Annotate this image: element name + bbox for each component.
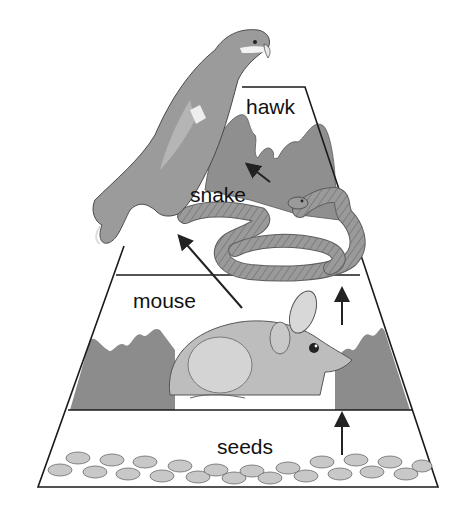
food-chain-pyramid-diagram: hawk snake mouse seeds [0,0,459,509]
mouse-illustration [169,287,352,398]
label-mouse: mouse [133,290,196,311]
label-seeds: seeds [217,436,273,457]
label-snake: snake [190,184,246,205]
label-hawk: hawk [246,96,295,117]
